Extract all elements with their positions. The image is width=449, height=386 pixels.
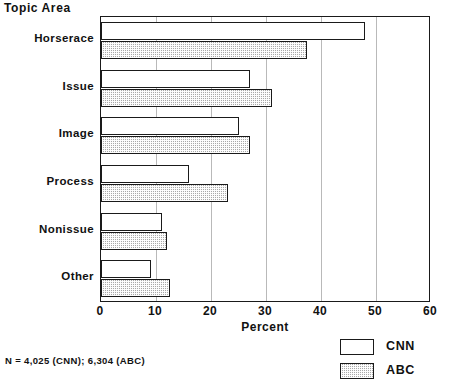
bar-abc-image [101, 136, 250, 154]
bar-group-horserace [101, 17, 429, 65]
bar-cnn-issue [101, 70, 250, 88]
y-axis-label-image: Image [0, 127, 94, 139]
y-axis-label-process: Process [0, 175, 94, 187]
bar-abc-process [101, 184, 228, 202]
bar-cnn-image [101, 117, 239, 135]
bar-cnn-process [101, 165, 189, 183]
bar-abc-other [101, 279, 170, 297]
bars-layer [101, 17, 429, 301]
bar-cnn-horserace [101, 22, 365, 40]
x-axis-title: Percent [100, 320, 430, 334]
bar-abc-horserace [101, 41, 307, 59]
bar-cnn-nonissue [101, 213, 162, 231]
bar-group-issue [101, 65, 429, 113]
bar-group-other [101, 255, 429, 303]
x-tick-60: 60 [410, 304, 449, 318]
x-axis-tick-labels: 0102030405060 [0, 304, 449, 320]
legend-label-abc: ABC [386, 363, 415, 377]
y-axis-label-nonissue: Nonissue [0, 223, 94, 235]
x-tick-20: 20 [190, 304, 230, 318]
y-axis-label-horserace: Horserace [0, 32, 94, 44]
bar-cnn-other [101, 260, 151, 278]
bar-abc-nonissue [101, 232, 167, 250]
sample-size-footnote: N = 4,025 (CNN); 6,304 (ABC) [5, 355, 145, 366]
bar-group-image [101, 112, 429, 160]
chart-plot-area [100, 16, 430, 302]
legend-label-cnn: CNN [386, 339, 415, 353]
bar-abc-issue [101, 89, 272, 107]
legend-item-abc: ABC [340, 360, 445, 384]
page-title: Topic Area [4, 1, 71, 15]
y-axis-labels: HorseraceIssueImageProcessNonissueOther [0, 16, 94, 302]
legend-item-cnn: CNN [340, 336, 445, 360]
y-axis-label-issue: Issue [0, 80, 94, 92]
x-tick-30: 30 [245, 304, 285, 318]
x-tick-50: 50 [355, 304, 395, 318]
bar-group-nonissue [101, 208, 429, 256]
legend-swatch-cnn-icon [340, 339, 374, 355]
x-tick-0: 0 [80, 304, 120, 318]
x-tick-40: 40 [300, 304, 340, 318]
bar-group-process [101, 160, 429, 208]
y-axis-label-other: Other [0, 270, 94, 282]
chart-legend: CNNABC [340, 336, 445, 384]
legend-swatch-abc-icon [340, 363, 374, 379]
x-tick-10: 10 [135, 304, 175, 318]
